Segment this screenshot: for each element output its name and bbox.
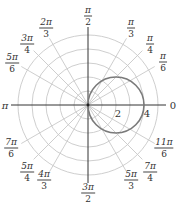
denominator: 4: [23, 46, 31, 55]
angle-label-pi-over-2: π2: [84, 6, 92, 27]
denominator: 2: [84, 195, 92, 204]
angle-label-5pi-over-4: 5π4: [20, 162, 34, 183]
label-pi: π: [2, 100, 9, 111]
angle-label-7pi-over-4: 7π4: [143, 162, 157, 183]
denominator: 4: [23, 174, 31, 183]
numerator: 5π: [5, 53, 19, 62]
numerator: 7π: [143, 162, 157, 171]
label-zero: 0: [170, 100, 176, 111]
angle-label-7pi-over-6: 7π6: [4, 138, 18, 159]
denominator: 3: [40, 182, 48, 191]
numerator: 5π: [20, 162, 34, 171]
origin-dot: [87, 104, 90, 107]
numerator: π: [146, 34, 154, 43]
radial-tick-2: 2: [115, 108, 121, 119]
angle-label-3pi-over-4: 3π4: [20, 34, 34, 55]
denominator: 6: [160, 150, 168, 159]
numerator: 3π: [81, 183, 95, 192]
denominator: 3: [42, 30, 50, 39]
denominator: 6: [8, 65, 16, 74]
denominator: 4: [146, 174, 154, 183]
numerator: 7π: [4, 138, 18, 147]
numerator: 11π: [154, 138, 173, 147]
numerator: π: [159, 52, 167, 61]
numerator: 3π: [20, 34, 34, 43]
angle-label-pi-over-6: π6: [159, 52, 167, 73]
denominator: 6: [7, 150, 15, 159]
numerator: 5π: [124, 170, 138, 179]
angle-label-pi-over-3: π3: [127, 18, 135, 39]
angle-label-3pi-over-2: 3π2: [81, 183, 95, 204]
angle-label-4pi-over-3: 4π3: [37, 170, 51, 191]
numerator: 2π: [39, 18, 53, 27]
denominator: 3: [127, 30, 135, 39]
angle-label-11pi-over-6: 11π6: [154, 138, 173, 159]
angle-label-2pi-over-3: 2π3: [39, 18, 53, 39]
numerator: 4π: [37, 170, 51, 179]
denominator: 3: [127, 182, 135, 191]
denominator: 2: [84, 18, 92, 27]
denominator: 4: [146, 46, 154, 55]
numerator: π: [84, 6, 92, 15]
numerator: π: [127, 18, 135, 27]
angle-label-5pi-over-6: 5π6: [5, 53, 19, 74]
angle-label-pi-over-4: π4: [146, 34, 154, 55]
radial-tick-4: 4: [144, 108, 150, 119]
angle-label-5pi-over-3: 5π3: [124, 170, 138, 191]
denominator: 6: [159, 64, 167, 73]
